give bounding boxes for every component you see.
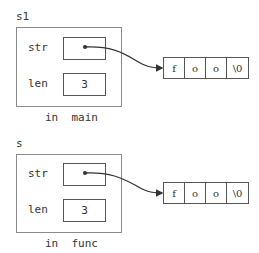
pointer-arrow-2 — [83, 171, 162, 193]
pointer-arrows — [0, 0, 259, 253]
pointer-arrow-1 — [83, 45, 162, 68]
